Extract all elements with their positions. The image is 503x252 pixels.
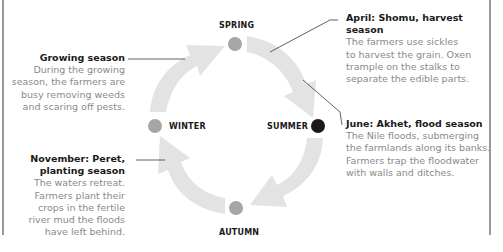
arrow-summer-to-autumn [250, 138, 323, 207]
note-growing-line: busy removing weeds [8, 89, 125, 101]
autumn-circle [229, 201, 243, 215]
note-april-title: April: Shomu, harvest season [346, 12, 491, 36]
note-growing-line: During the growing [8, 64, 125, 76]
note-june-line: Farmers trap the floodwater [346, 155, 491, 167]
leader-april [270, 20, 338, 52]
note-june-flood: June: Akhet, flood season The Nile flood… [346, 118, 491, 179]
winter-circle [148, 119, 162, 133]
arrow-spring-to-summer [247, 36, 316, 118]
arrow-autumn-to-winter [158, 136, 225, 214]
note-april-line: The farmers use sickles [346, 36, 491, 48]
note-april-line: separate the edible parts. [346, 73, 491, 85]
note-november-line: crops in the fertile [8, 202, 125, 214]
note-june-line: the farmlands along its banks. [346, 142, 491, 154]
note-november-line: The waters retreat. [8, 177, 125, 189]
note-april-line: to harvest the grain. Oxen [346, 49, 491, 61]
note-november-line: Farmers plant their [8, 190, 125, 202]
spring-label: SPRING [219, 21, 254, 30]
spring-circle [228, 37, 242, 51]
note-june-line: The Nile floods, submerging [346, 130, 491, 142]
note-november-line: river mud the floods [8, 214, 125, 226]
arrow-winter-to-spring [150, 45, 225, 112]
note-april-harvest: April: Shomu, harvest season The farmers… [346, 12, 491, 85]
note-june-line: with walls and ditches. [346, 167, 491, 179]
note-november-line: have left behind. [8, 226, 125, 238]
note-april-line: trample on the stalks to [346, 61, 491, 73]
note-november-title: November: Peret, [8, 153, 125, 165]
note-growing-season: Growing season During the growing season… [8, 52, 125, 113]
note-growing-title: Growing season [8, 52, 125, 64]
autumn-label: AUTUMN [219, 228, 259, 237]
note-growing-line: season, the farmers are [8, 76, 125, 88]
winter-label: WINTER [169, 122, 206, 131]
summer-label: SUMMER [267, 122, 308, 131]
note-november-planting: November: Peret, planting season The wat… [8, 153, 125, 238]
note-growing-line: and scaring off pests. [8, 101, 125, 113]
note-june-title: June: Akhet, flood season [346, 118, 491, 130]
note-november-title: planting season [8, 165, 125, 177]
summer-circle [311, 119, 325, 133]
